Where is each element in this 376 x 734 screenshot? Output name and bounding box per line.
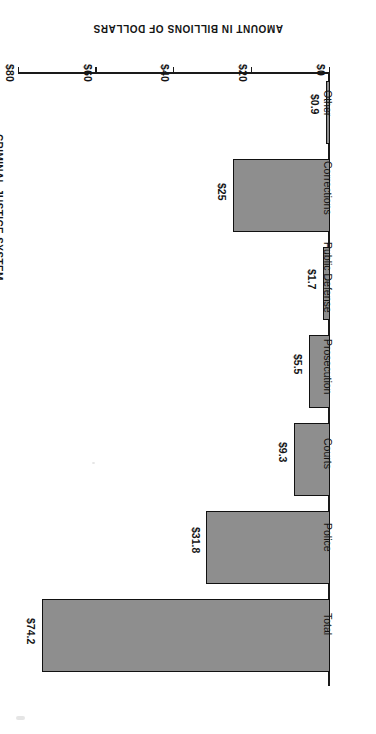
scanned-page: $0 $20 $40 $60 $80 $74.2 Total $31.8 Pol… [0, 0, 376, 734]
axis-tick-20 [251, 67, 252, 74]
bar-value-prosecution: $5.5 [292, 354, 304, 374]
bar-chart-figure: $0 $20 $40 $60 $80 $74.2 Total $31.8 Pol… [0, 0, 376, 734]
value-axis-title: AMOUNT IN BILLIONS OF DOLLARS [8, 23, 368, 34]
category-label-police: Police [322, 523, 334, 552]
plot-area: $0 $20 $40 $60 $80 $74.2 Total $31.8 Pol… [19, 74, 330, 686]
axis-tick-40 [173, 67, 174, 74]
axis-tick-label-40: $40 [160, 64, 172, 82]
axis-tick-label-60: $60 [82, 64, 94, 82]
bar-value-police: $31.8 [190, 527, 202, 553]
bar-value-total: $74.2 [25, 618, 37, 644]
axis-tick-60 [95, 67, 96, 74]
axis-tick-label-20: $20 [237, 64, 249, 82]
category-label-total: Total [322, 613, 334, 635]
bar-value-other: $0.9 [309, 94, 321, 114]
bar-value-corrections: $25 [216, 183, 228, 201]
axis-tick-label-80: $80 [4, 64, 16, 82]
axis-tick-0 [329, 67, 330, 74]
bar-corrections[interactable] [233, 159, 330, 232]
axis-tick-label-0: $0 [315, 64, 327, 76]
bar-total[interactable] [42, 599, 330, 672]
bar-value-public-defense: $1.7 [306, 269, 318, 289]
category-label-courts: Courts [322, 438, 334, 469]
bar-police[interactable] [206, 511, 330, 584]
category-label-prosecution: Prosecution [322, 339, 334, 394]
category-label-public-defense: Public Defense [322, 242, 334, 313]
value-axis-line [19, 72, 330, 74]
category-label-other: Other [322, 90, 334, 116]
category-label-corrections: Corrections [322, 161, 334, 215]
axis-tick-80 [18, 67, 19, 74]
bar-value-courts: $9.3 [277, 442, 289, 462]
category-axis-title: CRIMINAL JUSTICE SYSTEM [0, 134, 4, 281]
